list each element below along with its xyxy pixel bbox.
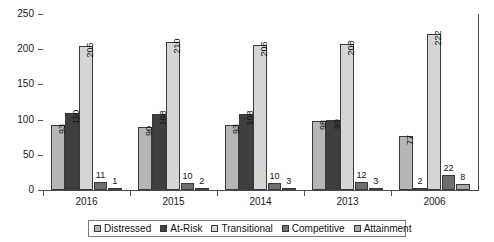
legend-label: Distressed [104,224,151,234]
bar[interactable]: 93 [51,125,65,190]
x-axis-tick [391,191,392,196]
legend-item[interactable]: Competitive [282,224,345,234]
bar[interactable]: 3 [369,188,383,190]
legend-label: Attainment [364,224,412,234]
gridline [43,190,478,191]
y-axis-tick-label: 100 [17,115,34,125]
bar[interactable]: 8 [456,184,470,190]
bar[interactable]: 1 [108,188,122,190]
bar-value-label: 22 [443,164,453,173]
y-axis-tick-label: 250 [17,9,34,19]
legend-item[interactable]: At-Risk [160,224,202,234]
bar[interactable]: 10 [181,183,195,190]
legend-label: Competitive [292,224,345,234]
x-axis-tick [130,191,131,196]
bar-chart: 050100150200250 931102051119010821010293… [0,0,494,242]
x-axis-tick-label: 2015 [162,196,184,207]
bar[interactable]: 108 [239,114,253,190]
bar[interactable]: 110 [65,113,79,190]
bar-group: 90108210102 [130,14,217,190]
legend-item[interactable]: Distressed [94,224,151,234]
chart-legend: DistressedAt-RiskTransitionalCompetitive… [88,220,406,237]
bar-value-label: 11 [96,171,105,180]
bar[interactable]: 12 [355,182,369,190]
bar[interactable]: 90 [138,127,152,190]
bar[interactable]: 98 [312,121,326,190]
x-axis-tick-label: 2006 [423,196,445,207]
bar-value-label: 8 [460,173,465,182]
bar-value-label: 205 [86,42,95,57]
bar-value-label: 10 [269,172,279,181]
y-axis-tick-label: 0 [28,185,34,195]
bar[interactable]: 208 [340,44,354,190]
bar[interactable]: 210 [166,42,180,190]
legend-swatch-icon [211,225,218,232]
bar-value-label: 10 [182,172,192,181]
legend-item[interactable]: Attainment [354,224,412,234]
legend-swatch-icon [282,225,289,232]
bar[interactable]: 2 [413,188,427,190]
bar[interactable]: 22 [442,175,456,190]
bar-value-label: 210 [173,39,182,54]
y-axis-tick-label: 150 [17,79,34,89]
x-axis-tick [304,191,305,196]
bar[interactable]: 99 [326,120,340,190]
y-axis-tick-label: 200 [17,44,34,54]
bar-value-label: 1 [112,177,117,186]
plot-area: 9311020511190108210102931082061039899208… [43,14,478,190]
bar-group: 93110205111 [43,14,130,190]
legend-item[interactable]: Transitional [211,224,272,234]
bar[interactable]: 205 [79,46,93,190]
x-axis-tick [217,191,218,196]
bar[interactable]: 206 [253,45,267,190]
bar[interactable]: 77 [399,136,413,190]
bar-value-label: 12 [356,171,366,180]
bar-value-label: 77 [406,135,415,145]
bar-value-label: 206 [260,41,269,56]
bar[interactable]: 10 [268,183,282,190]
bar-value-label: 3 [373,177,378,186]
bar-group: 93108206103 [217,14,304,190]
bar-group: 9899208123 [304,14,391,190]
bar[interactable]: 3 [282,188,296,190]
bar[interactable]: 11 [94,182,108,190]
x-axis-tick-label: 2016 [75,196,97,207]
x-axis-tick [43,191,44,196]
bar-value-label: 3 [286,177,291,186]
bar[interactable]: 93 [225,125,239,190]
legend-label: At-Risk [170,224,202,234]
x-axis-tick-label: 2014 [249,196,271,207]
legend-swatch-icon [354,225,361,232]
bar-value-label: 2 [417,177,422,186]
x-axis-tick-label: 2013 [336,196,358,207]
bar-value-label: 208 [347,40,356,55]
y-axis-tick-label: 50 [23,150,34,160]
legend-label: Transitional [221,224,272,234]
bar-group: 772222228 [391,14,478,190]
legend-swatch-icon [94,225,101,232]
bar[interactable]: 108 [152,114,166,190]
bar-value-label: 222 [434,30,443,45]
bar[interactable]: 2 [195,188,209,190]
bar[interactable]: 222 [427,34,441,190]
plot-right-border [478,14,479,191]
bar-value-label: 2 [199,177,204,186]
legend-swatch-icon [160,225,167,232]
